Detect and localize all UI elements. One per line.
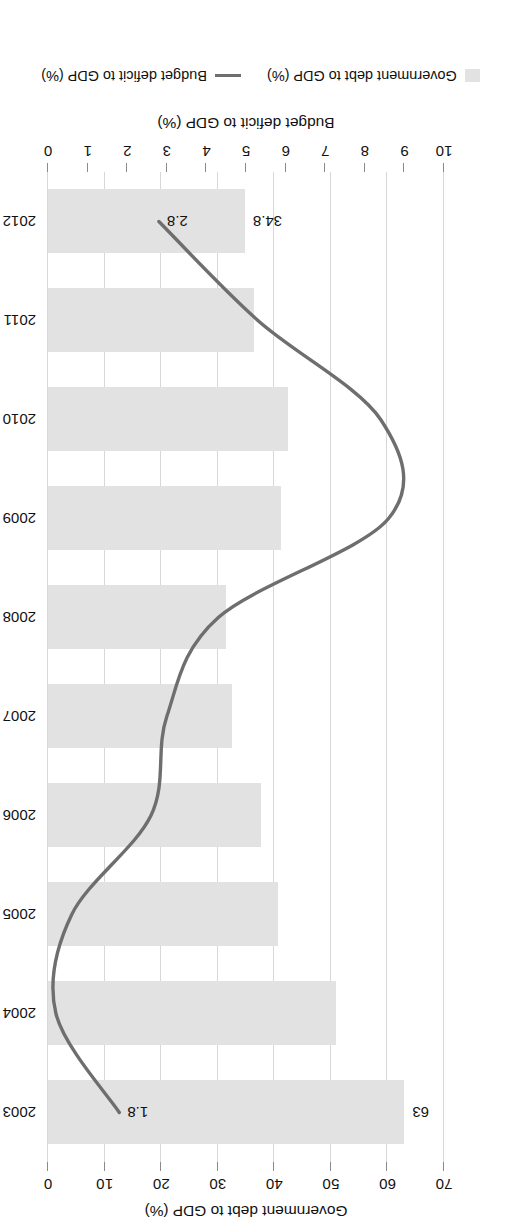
axis-tick — [160, 1162, 161, 1171]
axis-tick — [205, 163, 206, 172]
axis-tick-label: 4 — [202, 143, 211, 160]
axis-tick — [364, 163, 365, 172]
axis-tick — [87, 163, 88, 172]
category-label: 2003 — [3, 1104, 36, 1121]
axis-tick-label: 9 — [400, 143, 409, 160]
axis-tick — [245, 163, 246, 172]
axis-tick — [166, 163, 167, 172]
line-data-label: 1.8 — [127, 1104, 148, 1121]
legend-bar-swatch-icon — [465, 70, 480, 83]
axis-tick-label: 20 — [153, 1176, 170, 1193]
bar-data-label: 34.8 — [253, 213, 282, 230]
category-label: 2006 — [3, 807, 36, 824]
axis-tick-label: 60 — [379, 1176, 396, 1193]
legend-label-government-debt: Government debt to GDP (%) — [267, 68, 457, 84]
chart-legend: Government debt to GDP (%) Budget defici… — [0, 68, 521, 84]
category-label: 2010 — [3, 411, 36, 428]
category-label: 2011 — [4, 312, 36, 329]
legend-label-budget-deficit: Budget deficit to GDP (%) — [41, 68, 207, 84]
axis-tick — [126, 163, 127, 172]
category-label: 2004 — [3, 1005, 36, 1022]
category-label: 2008 — [3, 609, 36, 626]
legend-item-government-debt: Government debt to GDP (%) — [267, 68, 480, 84]
axis-tick — [330, 1162, 331, 1171]
category-label: 2009 — [3, 510, 36, 527]
axis-tick — [273, 1162, 274, 1171]
axis-tick — [443, 163, 444, 172]
right-axis-title: Budget deficit to GDP (%) — [157, 114, 334, 132]
axis-tick-label: 3 — [163, 143, 172, 160]
line-data-label: 2.8 — [167, 213, 188, 230]
legend-item-budget-deficit: Budget deficit to GDP (%) — [41, 68, 241, 84]
legend-line-swatch-icon — [215, 75, 241, 78]
category-label: 2005 — [3, 906, 36, 923]
axis-tick-label: 5 — [242, 143, 251, 160]
axis-tick — [285, 163, 286, 172]
category-label: 2007 — [3, 708, 36, 725]
axis-tick — [47, 163, 48, 172]
axis-tick-label: 1 — [83, 143, 92, 160]
axis-tick-label: 2 — [123, 143, 132, 160]
axis-tick-label: 0 — [44, 143, 53, 160]
axis-tick-label: 7 — [321, 143, 330, 160]
axis-tick-label: 10 — [96, 1176, 113, 1193]
axis-tick-label: 40 — [266, 1176, 283, 1193]
axis-tick — [104, 1162, 105, 1171]
category-label: 2012 — [3, 213, 36, 230]
axis-tick-label: 10 — [435, 143, 452, 160]
left-axis-title: Government debt to GDP (%) — [144, 1202, 347, 1220]
budget-deficit-line-path — [53, 222, 404, 1113]
axis-tick — [217, 1162, 218, 1171]
axis-tick-label: 50 — [322, 1176, 339, 1193]
axis-tick-label: 6 — [281, 143, 290, 160]
axis-tick — [403, 163, 404, 172]
axis-tick-label: 8 — [361, 143, 370, 160]
bar-data-label: 63 — [412, 1104, 429, 1121]
axis-tick-label: 30 — [209, 1176, 226, 1193]
plot-area: 6334.81.82.8 — [48, 172, 444, 1162]
axis-tick — [324, 163, 325, 172]
axis-tick — [386, 1162, 387, 1171]
axis-tick-label: 0 — [44, 1176, 53, 1193]
axis-tick-label: 70 — [435, 1176, 452, 1193]
axis-tick — [47, 1162, 48, 1171]
line-series-budget-deficit — [48, 172, 444, 1162]
axis-tick — [443, 1162, 444, 1171]
